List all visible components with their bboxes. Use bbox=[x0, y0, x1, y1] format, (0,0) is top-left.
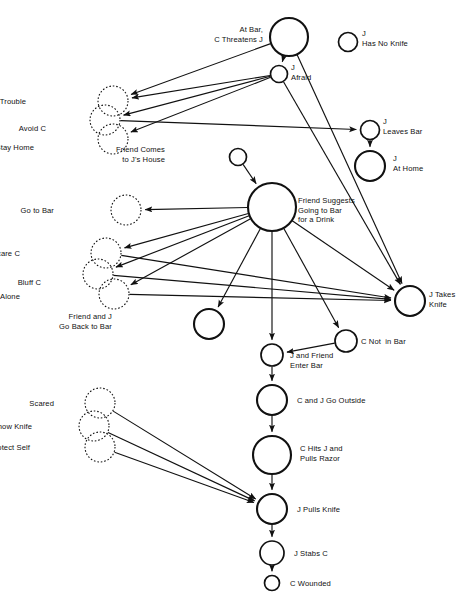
node-label-stay-home: Stay Home bbox=[0, 143, 34, 153]
node-label-c-not-in-bar: C Not in Bar bbox=[361, 337, 406, 347]
node-friend-and-j-go-back-to-bar[interactable] bbox=[194, 309, 224, 339]
diagram-canvas: At Bar, C Threatens JJ Has No KnifeJ Afr… bbox=[0, 0, 464, 605]
node-j-leaves-bar[interactable] bbox=[361, 121, 380, 140]
edge-avoid-c-to-j-leaves-bar bbox=[120, 121, 356, 130]
edge-friend-suggests-going-to-bar-to-c-leaves-j-alone bbox=[131, 219, 251, 285]
node-label-j-leaves-bar: J Leaves Bar bbox=[383, 117, 422, 136]
node-label-friend-and-j-go-back-to-bar: Friend and J Go Back to Bar bbox=[59, 312, 112, 331]
edge-scare-c-to-j-takes-knife bbox=[121, 255, 391, 298]
edge-layer bbox=[108, 44, 402, 572]
node-j-afraid[interactable] bbox=[271, 66, 288, 83]
node-j-takes-knife[interactable] bbox=[395, 286, 425, 316]
node-label-avoid-c: Avoid C bbox=[19, 124, 46, 134]
node-bluff-c[interactable] bbox=[83, 259, 113, 289]
edge-show-knife-to-j-pulls-knife bbox=[108, 433, 255, 501]
edge-friend-suggests-going-to-bar-to-c-not-in-bar bbox=[284, 228, 339, 327]
node-c-wounded[interactable] bbox=[265, 576, 280, 591]
edge-at-bar-c-threatens-j-to-j-afraid bbox=[282, 56, 284, 62]
edge-c-leaves-j-alone-to-j-takes-knife bbox=[129, 294, 390, 300]
node-label-scared: Scared bbox=[29, 399, 54, 409]
node-j-has-no-knife[interactable] bbox=[339, 33, 358, 52]
node-label-j-pulls-knife: J Pulls Knife bbox=[297, 505, 340, 515]
diagram-graphics bbox=[0, 0, 464, 605]
edge-friend-suggests-going-to-bar-to-bluff-c bbox=[116, 216, 249, 267]
node-c-not-in-bar[interactable] bbox=[335, 330, 357, 352]
node-layer bbox=[79, 18, 425, 591]
node-scare-c[interactable] bbox=[91, 238, 121, 268]
edge-at-bar-c-threatens-j-to-j-takes-knife bbox=[297, 55, 402, 284]
node-label-go-to-bar: Go to Bar bbox=[21, 206, 54, 216]
node-label-j-has-no-knife: J Has No Knife bbox=[362, 29, 408, 48]
node-label-c-and-j-go-outside: C and J Go Outside bbox=[297, 396, 366, 406]
node-j-pulls-knife[interactable] bbox=[257, 494, 287, 524]
node-label-friend-suggests-going-to-bar: Friend Suggests Going to Bar for a Drink bbox=[298, 196, 355, 225]
node-avoid-c[interactable] bbox=[90, 105, 120, 135]
edge-friend-suggests-going-to-bar-to-go-to-bar bbox=[145, 208, 247, 210]
node-show-knife[interactable] bbox=[79, 411, 109, 441]
node-friend-suggests-going-to-bar[interactable] bbox=[248, 183, 296, 231]
node-at-bar-c-threatens-j[interactable] bbox=[270, 18, 308, 56]
node-j-at-home[interactable] bbox=[355, 151, 385, 181]
node-label-j-stabs-c: J Stabs C bbox=[294, 549, 328, 559]
node-j-stabs-c[interactable] bbox=[260, 541, 284, 565]
edge-protect-self-to-j-pulls-knife bbox=[115, 452, 254, 502]
node-avoid-trouble[interactable] bbox=[98, 86, 128, 116]
node-label-avoid-trouble: Avoid Trouble bbox=[0, 97, 26, 107]
edge-friend-comes-to-js-house-to-friend-suggests-going-to-bar bbox=[243, 164, 256, 183]
node-label-show-knife: Show Knife bbox=[0, 422, 32, 432]
node-label-c-leaves-j-alone: C Leaves J Alone bbox=[0, 292, 20, 302]
node-label-c-hits-j-and-pulls-razor: C Hits J and Pulls Razor bbox=[300, 444, 343, 463]
node-label-at-bar-c-threatens-j: At Bar, C Threatens J bbox=[214, 25, 263, 44]
node-c-and-j-go-outside[interactable] bbox=[257, 385, 287, 415]
node-label-j-and-friend-enter-bar: J and Friend Enter Bar bbox=[290, 351, 333, 370]
edge-friend-suggests-going-to-bar-to-friend-and-j-go-back-to-bar bbox=[218, 229, 260, 308]
edge-scared-to-j-pulls-knife bbox=[113, 411, 255, 499]
node-label-protect-self: Protect Self bbox=[0, 443, 30, 453]
node-c-leaves-j-alone[interactable] bbox=[99, 279, 129, 309]
edge-friend-suggests-going-to-bar-to-j-takes-knife bbox=[292, 221, 394, 290]
node-protect-self[interactable] bbox=[85, 432, 115, 462]
node-label-bluff-c: Bluff C bbox=[18, 278, 41, 288]
edge-bluff-c-to-j-takes-knife bbox=[113, 275, 390, 299]
node-c-hits-j-and-pulls-razor[interactable] bbox=[253, 436, 291, 474]
node-j-and-friend-enter-bar[interactable] bbox=[261, 344, 283, 366]
node-label-c-wounded: C Wounded bbox=[290, 579, 331, 589]
node-label-j-at-home: J At Home bbox=[393, 154, 423, 173]
node-label-friend-comes-to-js-house: Friend Comes to J's House bbox=[116, 145, 165, 164]
node-label-j-afraid: J Afraid bbox=[291, 63, 311, 82]
node-label-scare-c: Scare C bbox=[0, 249, 20, 259]
node-friend-comes-to-js-house[interactable] bbox=[230, 149, 247, 166]
node-scared[interactable] bbox=[85, 388, 115, 418]
node-label-j-takes-knife: J Takes Knife bbox=[429, 290, 455, 309]
node-go-to-bar[interactable] bbox=[111, 195, 141, 225]
